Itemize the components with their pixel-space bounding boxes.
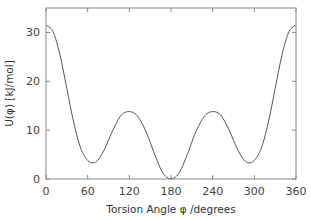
x-tick-label-60: 60 xyxy=(81,185,95,198)
y-tick-label-30: 30 xyxy=(26,26,40,39)
y-axis-label: U(φ) [kJ/mol] xyxy=(3,60,15,127)
x-axis-label: Torsion Angle φ /degrees xyxy=(105,203,235,215)
x-tick-label-180: 180 xyxy=(161,185,182,198)
y-tick-label-10: 10 xyxy=(26,124,40,137)
x-tick-label-300: 300 xyxy=(244,185,265,198)
y-tick-label-20: 20 xyxy=(26,75,40,88)
tick-labels: 0601201802403003600102030 xyxy=(26,26,307,198)
x-tick-label-120: 120 xyxy=(119,185,140,198)
x-tick-label-240: 240 xyxy=(202,185,223,198)
torsion-potential-chart: 0601201802403003600102030 Torsion Angle … xyxy=(0,0,311,220)
y-tick-label-0: 0 xyxy=(33,173,40,186)
x-tick-label-0: 0 xyxy=(43,185,50,198)
potential-curve xyxy=(46,25,296,179)
x-tick-label-360: 360 xyxy=(286,185,307,198)
